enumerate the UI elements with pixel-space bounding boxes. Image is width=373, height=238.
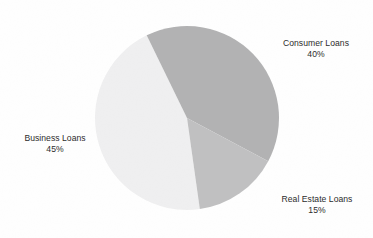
pie-label-consumer-loans-name: Consumer Loans	[266, 38, 366, 49]
pie-label-business-loans-value: 45%	[6, 144, 104, 155]
pie-label-consumer-loans: Consumer Loans 40%	[266, 38, 366, 61]
pie-label-real-estate-loans-value: 15%	[263, 205, 371, 216]
pie-label-real-estate-loans: Real Estate Loans 15%	[263, 194, 371, 217]
pie-label-consumer-loans-value: 40%	[266, 49, 366, 60]
pie-chart-figure: Consumer Loans 40% Business Loans 45% Re…	[0, 0, 373, 238]
pie-label-real-estate-loans-name: Real Estate Loans	[263, 194, 371, 205]
pie-label-business-loans: Business Loans 45%	[6, 133, 104, 156]
pie-label-business-loans-name: Business Loans	[6, 133, 104, 144]
